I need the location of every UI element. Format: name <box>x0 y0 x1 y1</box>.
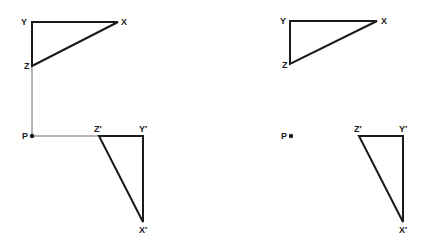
left-construction-lines <box>32 66 99 136</box>
left-original-triangle <box>32 22 118 66</box>
left-label-z-prime: Z′ <box>94 124 102 134</box>
left-image-triangle <box>99 136 143 222</box>
right-panel: Y X Z P Z′ Y′ X′ <box>280 16 407 235</box>
right-image-triangle <box>359 136 403 222</box>
right-original-triangle <box>290 21 377 64</box>
left-label-z: Z <box>24 61 30 71</box>
right-label-p: P <box>281 131 287 141</box>
left-label-x-prime: X′ <box>139 225 147 235</box>
right-label-x: X <box>381 16 387 26</box>
left-label-x: X <box>121 17 127 27</box>
right-label-y: Y <box>280 16 286 26</box>
right-label-x-prime: X′ <box>399 225 407 235</box>
left-label-p: P <box>22 131 28 141</box>
left-panel: Y X Z P Z′ Y′ X′ <box>21 17 147 235</box>
right-label-y-prime: Y′ <box>399 124 407 134</box>
right-center-point <box>289 134 293 138</box>
right-label-z: Z <box>282 60 288 70</box>
left-label-y: Y <box>21 17 27 27</box>
left-label-y-prime: Y′ <box>139 124 147 134</box>
left-center-point <box>30 134 34 138</box>
right-label-z-prime: Z′ <box>354 124 362 134</box>
rotation-diagram: Y X Z P Z′ Y′ X′ Y X Z P Z′ Y′ X′ <box>0 0 425 249</box>
